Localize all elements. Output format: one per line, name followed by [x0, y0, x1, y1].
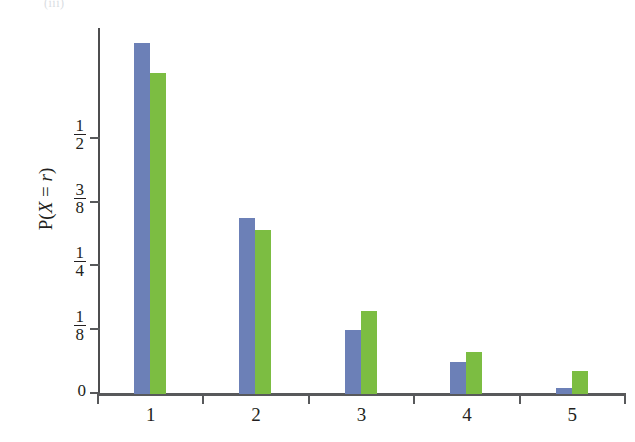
bar-series-blue-4	[450, 362, 466, 394]
x-tick-3	[413, 393, 415, 404]
x-tick-5	[624, 393, 626, 404]
top-caption: (iii)	[44, 0, 65, 11]
y-tick-label-0: 0	[54, 381, 86, 401]
y-axis-label-p: P(	[35, 213, 56, 230]
x-tick-4	[519, 393, 521, 404]
y-tick-label-2: 14	[54, 244, 86, 279]
x-tick-2	[308, 393, 310, 404]
y-axis-label-eq: =	[35, 182, 56, 202]
y-axis-label-close: )	[35, 168, 56, 174]
y-axis-label-r: r	[35, 174, 56, 181]
y-axis-label-x: X	[35, 202, 56, 214]
x-tick-1	[202, 393, 204, 404]
y-tick-label-3: 38	[54, 181, 86, 216]
bar-series-blue-1	[134, 43, 150, 394]
bar-series-green-2	[255, 230, 271, 394]
bar-series-blue-2	[239, 218, 255, 394]
bar-series-green-4	[466, 352, 482, 394]
bar-series-green-1	[150, 73, 166, 394]
x-tick-label-1: 1	[131, 404, 171, 426]
bar-series-green-5	[572, 371, 588, 394]
x-tick-label-4: 4	[447, 404, 487, 426]
x-tick-label-5: 5	[552, 404, 592, 426]
bar-series-blue-3	[345, 330, 361, 394]
x-tick-0	[97, 393, 99, 404]
bar-chart: (iii) P(X = r) 018143812 12345	[0, 0, 635, 442]
bar-series-blue-5	[556, 388, 572, 394]
bar-series-green-3	[361, 311, 377, 394]
y-tick-label-1: 18	[54, 308, 86, 343]
x-tick-label-2: 2	[236, 404, 276, 426]
y-tick-label-4: 12	[54, 117, 86, 152]
x-tick-label-3: 3	[342, 404, 382, 426]
bars-layer	[98, 28, 625, 394]
